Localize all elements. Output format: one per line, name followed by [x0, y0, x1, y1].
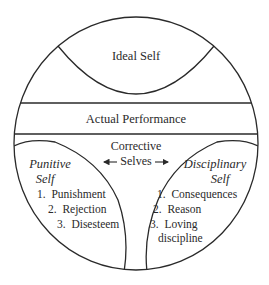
actual-performance-label: Actual Performance — [86, 112, 187, 126]
disciplinary-item-3: 3. Loving — [150, 218, 198, 231]
disciplinary-item-3-cont: discipline — [158, 232, 203, 245]
corrective-label-line1: Corrective — [111, 139, 162, 153]
punitive-self-title-1: Punitive — [28, 157, 71, 171]
disciplinary-item-1: 1. Consequences — [157, 188, 238, 201]
punitive-item-2: 2. Rejection — [48, 203, 107, 216]
corrective-label-line2: Selves — [120, 154, 152, 168]
punitive-item-1: 1. Punishment — [37, 188, 106, 200]
ideal-self-label: Ideal Self — [112, 49, 161, 63]
punitive-self-title-2: Self — [36, 172, 56, 186]
punitive-item-3: 3. Disesteem — [57, 218, 119, 230]
self-concept-diagram: Ideal Self Actual Performance Corrective… — [0, 0, 269, 285]
disciplinary-self-title-1: Disciplinary — [183, 157, 247, 171]
disciplinary-self-title-2: Self — [211, 172, 231, 186]
disciplinary-item-2: 2. Reason — [153, 203, 201, 215]
